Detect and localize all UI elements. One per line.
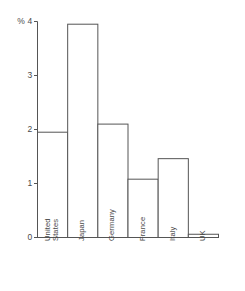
y-tick-label-2: 2 [28, 125, 33, 134]
bars-group [38, 24, 219, 237]
x-label-united-states-line1: United [43, 218, 52, 241]
x-label-japan: Japan [78, 220, 86, 241]
bar-chart: % 4 3 2 1 0 UnitedStatesJapanGermanyFran… [0, 0, 245, 291]
y-tick-label-1: 1 [28, 179, 33, 188]
y-tick-label-0: 0 [28, 233, 33, 242]
tick-marks-group [34, 22, 38, 238]
x-label-united-states-line2: States [52, 218, 60, 241]
x-label-france: France [139, 217, 147, 241]
y-tick-label-3: 3 [28, 71, 33, 80]
chart-canvas [0, 0, 245, 291]
x-label-italy: Italy [169, 227, 177, 241]
y-tick-label-4: % 4 [17, 17, 32, 26]
x-label-uk: UK [199, 230, 207, 241]
bar-japan [68, 24, 98, 237]
x-label-germany: Germany [108, 209, 116, 241]
x-label-united-states: UnitedStates [44, 218, 61, 241]
